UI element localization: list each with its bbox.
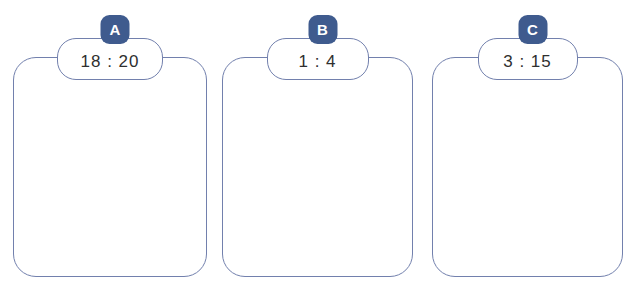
answer-card-b-body [222,57,413,277]
ratio-label-a: 18 : 20 [81,52,140,72]
ratio-tab-c: 3 : 15 [478,38,578,80]
letter-badge-a-text: A [110,22,121,37]
answer-card-b: 1 : 4 B [222,15,413,277]
letter-badge-b: B [308,15,337,44]
ratio-label-b: 1 : 4 [298,52,336,72]
ratio-label-c: 3 : 15 [503,52,552,72]
worksheet-page: 18 : 20 A 1 : 4 B 3 : 15 C [0,0,634,292]
ratio-tab-b: 1 : 4 [267,38,369,80]
answer-card-c-body [432,57,623,277]
letter-badge-c-text: C [527,22,538,37]
letter-badge-b-text: B [317,22,328,37]
answer-card-c: 3 : 15 C [432,15,623,277]
ratio-tab-a: 18 : 20 [57,38,163,80]
letter-badge-a: A [101,15,130,44]
answer-card-a: 18 : 20 A [13,15,207,277]
letter-badge-c: C [518,15,547,44]
answer-card-a-body [13,57,207,277]
